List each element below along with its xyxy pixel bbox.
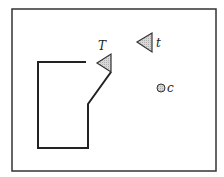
diagram-canvas: T t c (0, 0, 224, 177)
triangle-T-icon: T (97, 39, 111, 72)
label-t: t (156, 36, 161, 50)
triangle-t-icon: t (137, 33, 161, 52)
circle-c-icon: c (157, 81, 174, 95)
path-line (38, 62, 111, 148)
label-T: T (98, 39, 107, 53)
diagram-frame (12, 9, 216, 171)
label-c: c (167, 81, 174, 95)
